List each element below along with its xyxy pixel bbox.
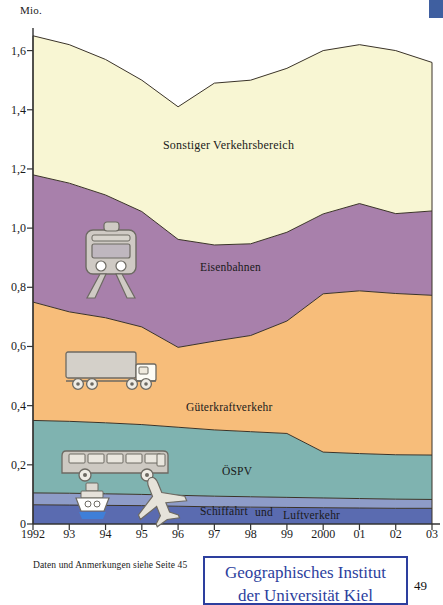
stamp-line-1: Geographisches Institut [205,561,406,584]
series-label-conjunction: und [255,506,273,518]
y-tick-label: 1,2 [0,163,26,175]
y-tick-label: 0,6 [0,340,26,352]
series-label-luftverkehr: Luftverkehr [283,509,340,521]
y-tick-label: 0,4 [0,400,26,412]
y-tick-label: 0,2 [0,459,26,471]
y-tick-label: 1,4 [0,104,26,116]
series-label--spv: ÖSPV [222,465,252,477]
page-number: 49 [414,578,427,594]
series-label-g-terkraftverkehr: Güterkraftverkehr [186,401,272,413]
institute-stamp: Geographisches Institut der Universität … [203,556,408,605]
figure-root: Mio. 00,20,40,60,81,01,21,41,6 199293949… [0,0,443,605]
y-tick-label: 1,0 [0,222,26,234]
series-label-schiffahrt: Schiffahrt [200,505,248,517]
y-tick-label: 1,6 [0,45,26,57]
y-tick-label: 0,8 [0,281,26,293]
footnote: Daten und Anmerkungen siehe Seite 45 [33,560,187,570]
series-label-sonstiger-verkehrsbereich: Sonstiger Verkehrsbereich [163,138,294,153]
series-label-eisenbahnen: Eisenbahnen [200,261,261,273]
stamp-line-2: der Universität Kiel [205,584,406,605]
x-tick-label: 03 [410,528,443,540]
